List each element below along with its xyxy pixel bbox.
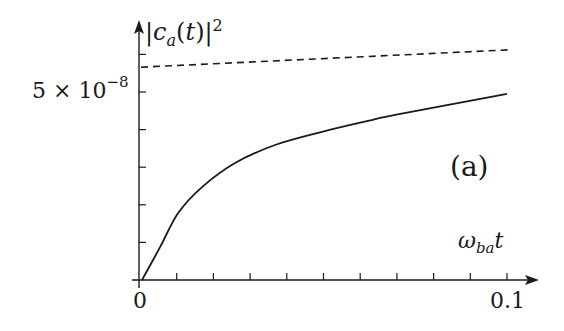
x-tick-label-0: 0 [133, 288, 147, 313]
y-axis-label: |ca(t)|2 [145, 16, 223, 50]
panel-label: (a) [450, 150, 489, 183]
x-tick-label-0-1: 0.1 [490, 288, 525, 313]
x-axis-label: ωbat [458, 228, 503, 257]
dashed-series-line [141, 50, 508, 67]
y-tick-label-5e-8: 5 × 10−8 [32, 76, 129, 103]
solid-series-line [142, 94, 507, 280]
